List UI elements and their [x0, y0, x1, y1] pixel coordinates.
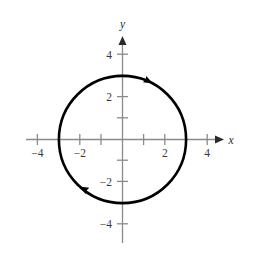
- graph-figure: −4 −2 2 4 4 2 −2 −4 x y: [0, 0, 256, 259]
- x-tick-label-neg4: −4: [31, 147, 43, 159]
- x-axis-arrowhead: [215, 136, 224, 144]
- x-tick-label-pos4: 4: [204, 147, 210, 159]
- axes-group: [26, 36, 224, 243]
- y-tick-label-pos4: 4: [106, 49, 112, 61]
- x-tick-label-pos2: 2: [162, 147, 168, 159]
- coordinate-plane-plot: −4 −2 2 4 4 2 −2 −4 x y: [0, 0, 256, 259]
- y-tick-label-neg4: −4: [100, 218, 112, 230]
- y-axis-arrowhead: [119, 36, 127, 45]
- x-axis-label: x: [227, 134, 234, 146]
- direction-arrow-upper-right-icon: [143, 76, 155, 87]
- y-tick-label-pos2: 2: [106, 91, 112, 103]
- y-tick-label-neg2: −2: [100, 176, 112, 188]
- x-tick-label-neg2: −2: [74, 147, 86, 159]
- y-axis-label: y: [119, 18, 126, 31]
